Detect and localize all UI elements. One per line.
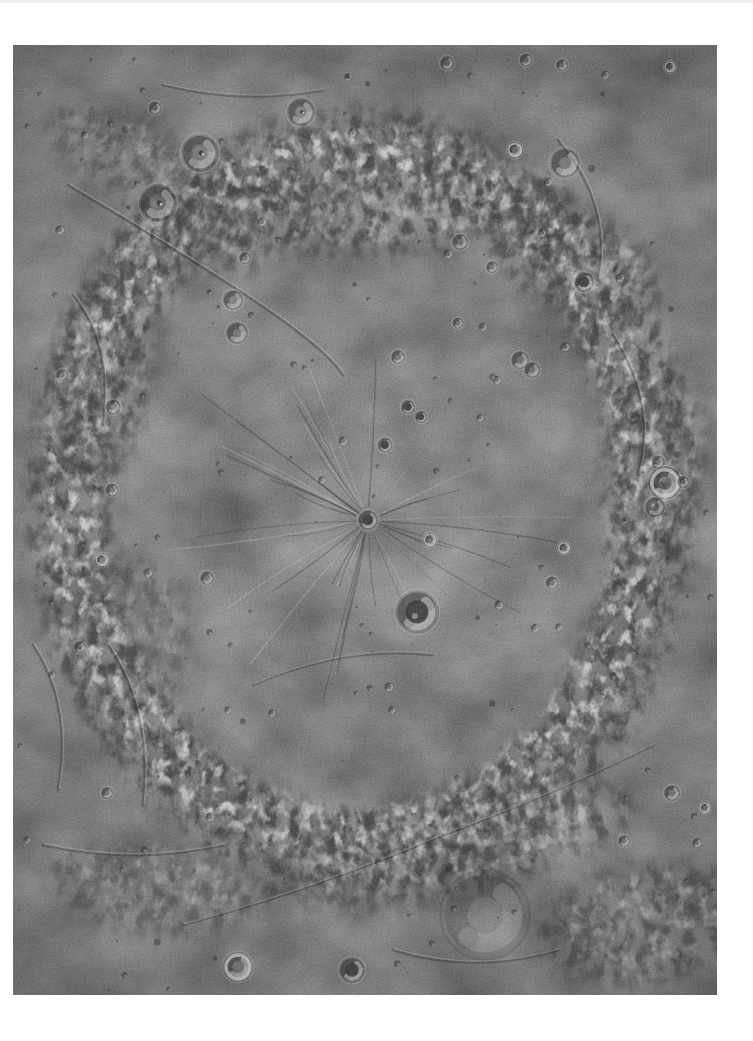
edge-vignette <box>13 45 717 995</box>
page-top-edge <box>0 0 753 3</box>
mercury-photo-canvas <box>13 45 717 995</box>
scanned-page <box>0 0 753 1041</box>
mercury-surface-photo <box>13 45 717 995</box>
